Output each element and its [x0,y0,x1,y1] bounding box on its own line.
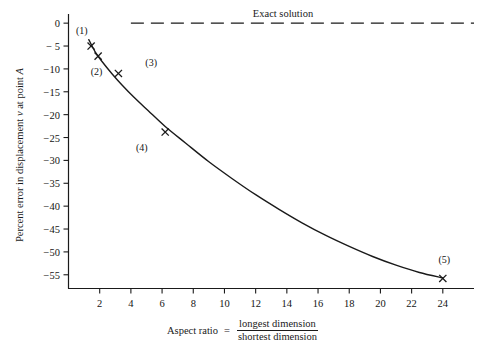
x-tick-label: 18 [344,298,355,309]
y-tick-label: − 5 [28,41,60,52]
y-tick-label: −30 [28,155,60,166]
data-point-label: (2) [91,65,103,76]
y-axis-title-variable: v [14,111,25,116]
y-tick-label: −50 [28,246,60,257]
x-tick-label: 6 [159,298,164,309]
x-axis-caption: Aspect ratio = longest dimension shortes… [167,318,319,343]
equals-sign: = [223,325,231,336]
x-tick-label: 24 [438,298,449,309]
y-tick-label: −10 [28,63,60,74]
y-axis-ticks [64,23,69,275]
exact-solution-label: Exact solution [253,8,313,19]
y-tick-label: −40 [28,201,60,212]
y-tick-label: −55 [28,269,60,280]
y-tick-label: −35 [28,178,60,189]
y-tick-label: −15 [28,86,60,97]
data-point-marker [95,52,102,59]
x-tick-label: 10 [219,298,230,309]
y-tick-label: 0 [28,18,60,29]
y-axis-title-point: A [14,68,25,74]
data-point-marker [162,128,169,135]
y-axis-title: Percent error in displacement v at point… [14,10,30,300]
x-axis-ticks [100,289,443,294]
y-tick-label: −45 [28,224,60,235]
finite-element-curve [89,40,443,278]
y-tick-label: −25 [28,132,60,143]
x-tick-label: 22 [406,298,417,309]
chart-figure: Exact solution 0− 5−10−15−20−25−30−35−40… [0,0,486,347]
data-point-label: (4) [136,141,148,152]
y-axis-title-suffix: at point [14,74,25,111]
x-tick-label: 4 [128,298,133,309]
fraction-denominator: shortest dimension [236,331,319,343]
x-tick-label: 2 [97,298,102,309]
y-tick-label: −20 [28,109,60,120]
x-tick-label: 20 [375,298,386,309]
x-tick-label: 12 [250,298,261,309]
x-tick-label: 16 [313,298,324,309]
data-point-label: (5) [439,254,451,265]
x-tick-label: 14 [282,298,293,309]
chart-plot-area [0,0,486,347]
x-axis-label-text: Aspect ratio [167,325,218,336]
fraction-numerator: longest dimension [237,318,318,331]
y-axis-title-prefix: Percent error in displacement [14,116,25,242]
aspect-ratio-fraction: longest dimension shortest dimension [236,318,319,343]
x-tick-label: 8 [191,298,196,309]
data-point-marker [115,70,122,77]
data-point-markers [88,42,447,282]
data-point-label: (3) [145,56,157,67]
data-point-label: (1) [76,24,88,35]
data-point-marker [439,275,446,282]
